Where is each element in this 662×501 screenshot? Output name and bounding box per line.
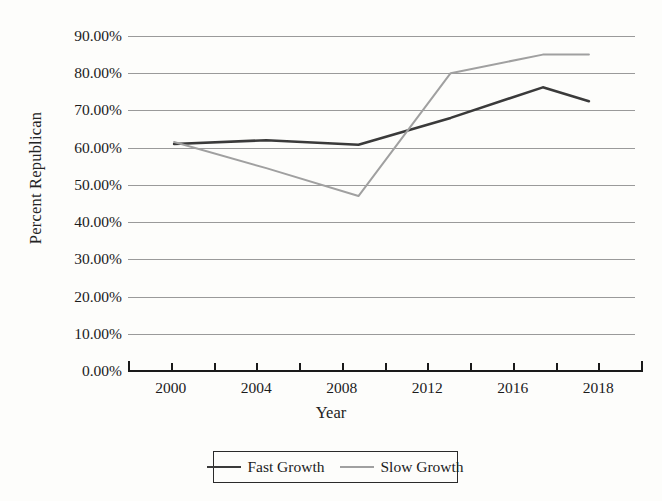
x-tick (470, 363, 472, 372)
legend-label: Slow Growth (380, 458, 463, 476)
x-tick-label: 2004 (221, 379, 291, 397)
x-tick (256, 363, 258, 372)
y-tick-label: 0.00% (48, 363, 122, 379)
y-tick-label: 40.00% (48, 214, 122, 230)
x-tick (427, 363, 429, 372)
x-tick-label: 2012 (392, 379, 462, 397)
legend-entry: Fast Growth (207, 458, 324, 476)
legend-swatch (207, 466, 241, 468)
y-tick-label: 80.00% (48, 65, 122, 81)
chart-legend: Fast GrowthSlow Growth (213, 451, 458, 483)
series-lines (128, 26, 640, 371)
legend-label: Fast Growth (247, 458, 324, 476)
x-axis-title: Year (0, 403, 662, 423)
y-tick-label: 90.00% (48, 28, 122, 44)
x-tick-label: 2000 (136, 379, 206, 397)
x-tick (214, 363, 216, 372)
x-tick (641, 361, 643, 372)
series-line (174, 55, 589, 196)
x-tick-label: 2018 (563, 379, 633, 397)
y-tick-label: 20.00% (48, 289, 122, 305)
line-chart-figure: Percent Republican 0.00%10.00%20.00%30.0… (0, 0, 662, 501)
x-tick-label: 2008 (307, 379, 377, 397)
x-tick (598, 363, 600, 372)
x-tick (128, 361, 130, 372)
x-tick (556, 363, 558, 372)
x-tick (385, 363, 387, 372)
legend-entry: Slow Growth (340, 458, 463, 476)
y-tick-label: 50.00% (48, 177, 122, 193)
x-tick (342, 363, 344, 372)
y-tick-label: 10.00% (48, 326, 122, 342)
series-line (174, 87, 589, 144)
y-axis-title: Percent Republican (26, 78, 46, 278)
x-tick (299, 363, 301, 372)
legend-swatch (340, 466, 374, 468)
x-tick-label: 2016 (478, 379, 548, 397)
x-tick (513, 363, 515, 372)
y-tick-label: 70.00% (48, 102, 122, 118)
plot-area (128, 26, 640, 371)
x-tick (171, 363, 173, 372)
y-tick-label: 30.00% (48, 251, 122, 267)
y-tick-label: 60.00% (48, 140, 122, 156)
y-axis-tick-labels: 0.00%10.00%20.00%30.00%40.00%50.00%60.00… (48, 0, 122, 501)
